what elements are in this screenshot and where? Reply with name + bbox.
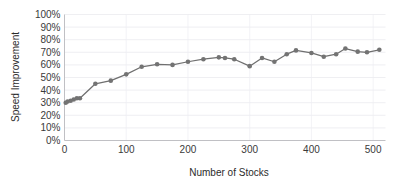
data-point [109,78,114,83]
data-point [309,51,314,56]
data-point [284,52,289,57]
y-tick-label: 70% [40,47,60,58]
y-axis-title: Speed Improvement [10,32,21,122]
x-tick-label: 200 [180,144,197,155]
x-tick-labels: 0100200300400500 [62,144,382,155]
data-point [78,96,83,101]
data-point [247,64,252,69]
speed-improvement-chart: 0%10%20%30%40%50%60%70%80%90%100% 010020… [0,0,406,185]
y-tick-labels: 0%10%20%30%40%50%60%70%80%90%100% [35,9,61,146]
data-point [170,63,175,68]
data-point [377,47,382,52]
x-tick-label: 100 [118,144,135,155]
data-point [139,64,144,69]
y-tick-label: 50% [40,72,60,83]
horizontal-gridlines [65,15,386,128]
data-point [217,55,222,60]
x-tick-label: 0 [62,144,68,155]
data-point [321,54,326,59]
y-tick-label: 10% [40,122,60,133]
data-point [223,56,228,61]
y-tick-label: 100% [35,9,61,20]
data-point [155,62,160,67]
data-point [201,57,206,62]
data-point [334,52,339,57]
y-tick-label: 90% [40,22,60,33]
x-tick-label: 300 [241,144,258,155]
data-point [294,48,299,53]
y-tick-label: 20% [40,110,60,121]
y-tick-label: 80% [40,34,60,45]
data-point [186,59,191,64]
data-point [124,72,129,77]
data-point [343,46,348,51]
y-tick-label: 30% [40,97,60,108]
data-point [272,59,277,64]
data-point [232,57,237,62]
x-tick-label: 400 [303,144,320,155]
data-point [93,82,98,87]
y-tick-label: 0% [46,135,61,146]
data-point [365,50,370,55]
chart-svg: 0%10%20%30%40%50%60%70%80%90%100% 010020… [0,0,406,185]
data-point [355,49,360,54]
y-tick-label: 40% [40,85,60,96]
x-tick-label: 500 [365,144,382,155]
y-tick-label: 60% [40,59,60,70]
x-axis-title: Number of Stocks [189,167,268,178]
data-point [260,56,265,61]
series-line-speed-improvement [66,49,380,103]
